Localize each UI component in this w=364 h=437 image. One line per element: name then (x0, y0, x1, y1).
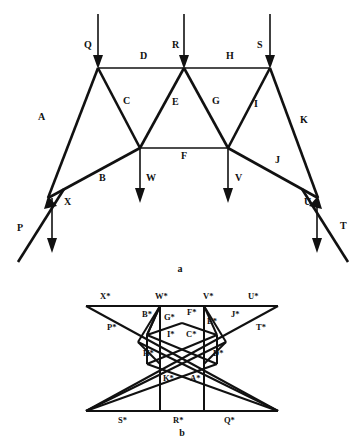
label-S-star: S* (118, 415, 127, 425)
load-arrow-X-head (47, 238, 57, 253)
load-arrow-W-head (135, 188, 145, 203)
label-G: G (212, 95, 220, 106)
load-arrow-V-head (223, 188, 233, 203)
label-E: E (172, 96, 179, 107)
force-line-secondary-sweep-left (147, 364, 278, 411)
label-E-star: E* (207, 316, 217, 326)
label-H-star: H* (143, 348, 154, 358)
label-R: R (172, 39, 180, 50)
label-V: V (235, 172, 243, 183)
label-V-star: V* (203, 291, 213, 301)
label-A-star: A* (190, 373, 200, 383)
figure-root: Q R S W V X U P T A B C D E F G H I J K … (0, 0, 364, 437)
label-I: I (254, 98, 258, 109)
label-F-star: F* (187, 307, 196, 317)
load-arrow-Q-head (93, 55, 103, 69)
label-P: P (17, 222, 23, 233)
label-C-star: C* (186, 329, 196, 339)
label-Q: Q (84, 39, 92, 50)
member-K-right-rafter (270, 68, 318, 198)
label-W: W (146, 172, 156, 183)
label-U: U (304, 196, 311, 207)
label-W-star: W* (155, 291, 168, 301)
panel-b-caption: b (179, 427, 185, 437)
label-D: D (140, 50, 147, 61)
label-R-star: R* (173, 415, 183, 425)
truss-members-group (48, 68, 318, 198)
load-arrow-S-head (265, 55, 275, 69)
label-S: S (257, 39, 263, 50)
panel-b-reciprocal-diagram: X* W* V* U* B* G* F* E* J* P* T* I* C* H… (0, 280, 364, 437)
label-U-star: U* (248, 291, 258, 301)
label-C: C (123, 95, 130, 106)
load-arrow-R-head (179, 55, 189, 69)
label-X: X (64, 196, 72, 207)
member-E-diagonal (140, 68, 184, 148)
label-A: A (38, 111, 46, 122)
label-H: H (226, 50, 234, 61)
label-P-star: P* (107, 322, 116, 332)
force-line-secondary-sweep-right (86, 364, 217, 411)
panel-a-caption: a (178, 263, 183, 274)
label-I-star: I* (167, 329, 175, 339)
label-J: J (275, 154, 280, 165)
reaction-line-P (18, 189, 64, 262)
label-D-star: D* (213, 348, 223, 358)
label-Q-star: Q* (224, 415, 235, 425)
member-I-diagonal (228, 68, 270, 148)
label-X-star: X* (100, 291, 110, 301)
member-A-left-rafter (48, 68, 98, 198)
load-arrow-U-head (312, 238, 322, 253)
label-K: K (300, 114, 308, 125)
label-F: F (181, 150, 187, 161)
label-J-star: J* (231, 309, 240, 319)
label-K-star: K* (163, 373, 174, 383)
member-C-diagonal (98, 68, 140, 148)
label-T-star: T* (256, 322, 266, 332)
label-B-star: B* (142, 309, 152, 319)
label-T: T (340, 220, 347, 231)
label-G-star: G* (164, 312, 175, 322)
member-G-diagonal (184, 68, 228, 148)
label-B: B (99, 172, 106, 183)
panel-a-truss-diagram: Q R S W V X U P T A B C D E F G H I J K … (0, 0, 364, 280)
applied-load-arrows-group (18, 14, 348, 262)
